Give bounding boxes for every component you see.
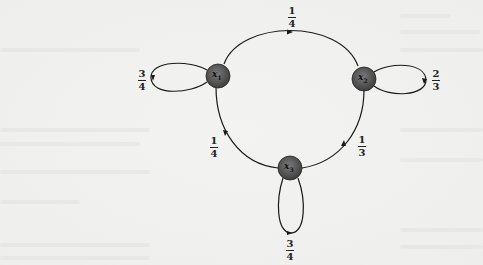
- prob-x3-x1: 1 4: [210, 136, 218, 159]
- prob-numerator: 2: [433, 69, 440, 79]
- prob-numerator: 3: [139, 69, 146, 79]
- prob-denominator: 3: [359, 148, 366, 158]
- prob-x1-x2: 1 4: [288, 6, 296, 29]
- prob-numerator: 3: [287, 239, 294, 249]
- prob-numerator: 1: [289, 6, 296, 16]
- node-label-x1: x1: [212, 69, 222, 81]
- prob-x3-self: 3 4: [286, 239, 294, 262]
- edge-x2-self: [374, 65, 426, 93]
- node-sub: 3: [289, 166, 293, 173]
- prob-numerator: 1: [359, 135, 366, 145]
- arrow-head-icon: [341, 140, 346, 146]
- edge-x1-self: [151, 63, 207, 91]
- edge-x3-x1: [216, 87, 278, 168]
- prob-x2-x3: 1 3: [358, 135, 366, 158]
- edge-x1-x2: [224, 31, 358, 67]
- node-sub: 2: [363, 77, 367, 84]
- prob-denominator: 3: [433, 82, 440, 92]
- state-diagram: [0, 0, 483, 265]
- edge-x3-self: [278, 178, 303, 233]
- prob-denominator: 4: [211, 149, 218, 159]
- prob-x2-self: 2 3: [432, 69, 440, 92]
- prob-denominator: 4: [287, 252, 294, 262]
- node-sub: 1: [217, 74, 221, 81]
- prob-numerator: 1: [211, 136, 218, 146]
- prob-x1-self: 3 4: [138, 69, 146, 92]
- node-label-x3: x3: [284, 161, 294, 173]
- edge-x2-x3: [302, 90, 364, 168]
- prob-denominator: 4: [139, 82, 146, 92]
- arrow-head-icon: [287, 231, 293, 235]
- prob-denominator: 4: [289, 19, 296, 29]
- node-label-x2: x2: [358, 72, 368, 84]
